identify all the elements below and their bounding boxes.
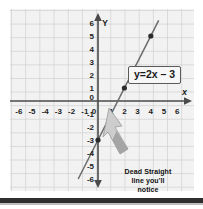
svg-text:2: 2	[122, 107, 127, 116]
svg-text:5: 5	[162, 107, 167, 116]
cropped-glyph-1: ●	[52, 0, 60, 5]
svg-text:-1: -1	[87, 110, 95, 119]
data-point-0-neg3	[95, 137, 100, 142]
svg-text:3: 3	[135, 107, 140, 116]
svg-text:5: 5	[90, 32, 95, 41]
svg-text:-5: -5	[28, 107, 36, 116]
top-cropped-text-strip: ● ●	[0, 0, 203, 6]
svg-text:4: 4	[149, 107, 154, 116]
svg-text:3: 3	[90, 58, 95, 67]
svg-text:-6: -6	[87, 175, 95, 184]
x-axis-label: x	[181, 87, 188, 97]
y-axis-label: Y	[102, 18, 108, 28]
svg-text:-3: -3	[55, 107, 63, 116]
caption-line-3: notice	[112, 185, 184, 194]
svg-text:6: 6	[90, 19, 95, 28]
graph-svg: -6 -5 -4 -3 -2 -1 0 1 2 3 4 5 6 6 5 4 3 …	[10, 9, 194, 191]
svg-text:-4: -4	[42, 107, 50, 116]
svg-text:-6: -6	[15, 107, 23, 116]
svg-text:2: 2	[90, 71, 95, 80]
data-point-4-5	[148, 33, 153, 38]
cropped-glyph-2: ●	[75, 0, 83, 5]
svg-text:-5: -5	[87, 162, 95, 171]
graph-panel: -6 -5 -4 -3 -2 -1 0 1 2 3 4 5 6 6 5 4 3 …	[10, 9, 194, 191]
svg-text:4: 4	[90, 45, 95, 54]
svg-text:6: 6	[175, 107, 180, 116]
annotation-caption: Dead Straight line you'll notice	[112, 167, 184, 194]
svg-text:-3: -3	[87, 136, 95, 145]
footer-divider-shadow	[0, 203, 203, 205]
svg-text:-2: -2	[68, 107, 76, 116]
equation-label-box: y=2x – 3	[128, 66, 181, 84]
svg-text:-2: -2	[87, 123, 95, 132]
svg-text:-4: -4	[87, 149, 95, 158]
x-axis	[10, 97, 192, 105]
data-point-2-1	[122, 85, 127, 90]
caption-line-1: Dead Straight	[112, 167, 184, 176]
svg-text:0: 0	[90, 93, 95, 102]
data-points	[95, 33, 153, 142]
caption-line-2: line you'll	[112, 176, 184, 185]
